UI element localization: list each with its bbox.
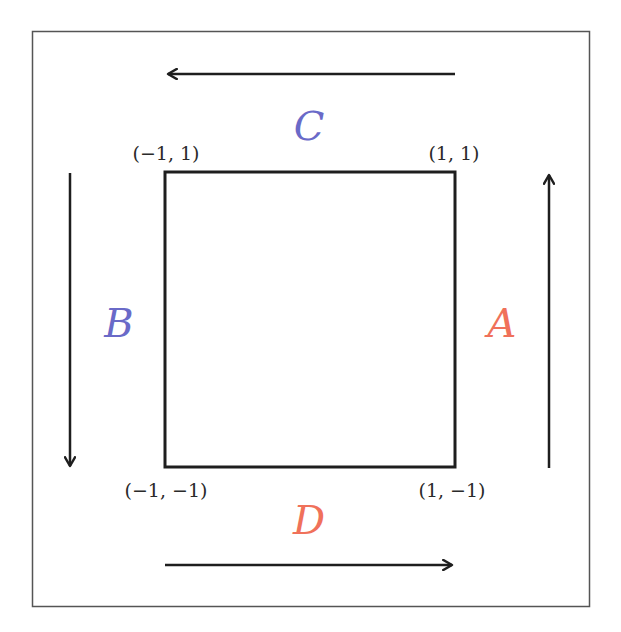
contour-diagram: (−1, 1) (1, 1) (−1, −1) (1, −1) C B A D xyxy=(0,0,621,632)
edge-label-c: C xyxy=(294,103,325,149)
edge-label-d: D xyxy=(292,497,325,543)
edge-label-a: A xyxy=(484,300,517,346)
edge-label-b: B xyxy=(103,300,133,346)
vertex-label-top-right: (1, 1) xyxy=(428,142,479,164)
vertex-label-bottom-right: (1, −1) xyxy=(418,479,485,501)
vertex-label-top-left: (−1, 1) xyxy=(132,142,199,164)
vertex-label-bottom-left: (−1, −1) xyxy=(125,479,208,501)
unit-square xyxy=(165,172,455,467)
